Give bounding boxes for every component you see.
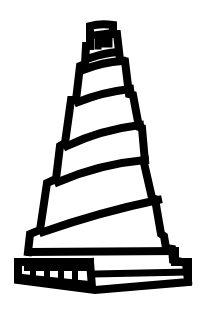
- icon-canvas: [0, 0, 215, 312]
- tier-band-3: [78, 89, 130, 102]
- base-tooth-4: [72, 266, 78, 280]
- tier-band-6: [43, 200, 158, 232]
- base-inner-line: [96, 272, 185, 274]
- tower-base: [18, 251, 188, 290]
- minaret-tower-icon: [0, 0, 215, 312]
- tower-right-edge: [113, 34, 188, 281]
- tier-band-5: [58, 160, 145, 182]
- base-tooth-2: [44, 266, 50, 278]
- tier-band-1: [90, 52, 118, 58]
- tier-band-4: [67, 125, 140, 146]
- base-tooth-3: [58, 266, 64, 279]
- base-top-line: [30, 251, 175, 252]
